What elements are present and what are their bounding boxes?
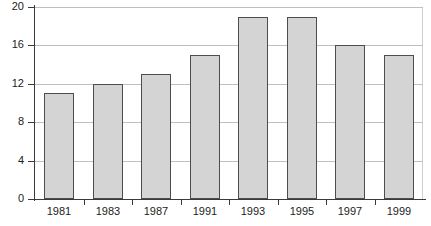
y-tick-label: 4: [0, 155, 24, 166]
x-tick-mark-1997: [375, 200, 376, 205]
bar-1987: [141, 74, 171, 199]
x-tick-label: 1993: [228, 206, 278, 217]
x-tick-mark-1983: [132, 200, 133, 205]
bar-chart: 048121620 198119831987199119931995199719…: [0, 0, 431, 226]
bar-1999: [384, 55, 414, 199]
bars-layer: [35, 7, 423, 199]
y-tick-label: 0: [0, 193, 24, 204]
bar-1997: [335, 45, 365, 199]
y-tick-mark-20: [28, 7, 35, 8]
x-tick-mark-1995: [326, 200, 327, 205]
x-tick-label: 1999: [374, 206, 424, 217]
y-tick-mark-8: [28, 122, 35, 123]
bar-1981: [44, 93, 74, 199]
bar-1995: [287, 17, 317, 199]
x-tick-mark-1993: [278, 200, 279, 205]
y-tick-label: 8: [0, 116, 24, 127]
y-tick-mark-12: [28, 84, 35, 85]
x-tick-label: 1995: [277, 206, 327, 217]
y-tick-label: 20: [0, 1, 24, 12]
y-tick-label: 16: [0, 39, 24, 50]
x-tick-mark-1987: [181, 200, 182, 205]
bar-1991: [190, 55, 220, 199]
x-tick-label: 1991: [180, 206, 230, 217]
x-tick-mark-1991: [229, 200, 230, 205]
x-tick-label: 1981: [34, 206, 84, 217]
x-tick-label: 1983: [83, 206, 133, 217]
x-tick-mark-1981: [84, 200, 85, 205]
x-tick-label: 1987: [131, 206, 181, 217]
y-tick-mark-16: [28, 45, 35, 46]
bar-1993: [238, 17, 268, 199]
y-tick-mark-4: [28, 161, 35, 162]
y-tick-label: 12: [0, 78, 24, 89]
y-tick-mark-0: [28, 199, 35, 200]
x-tick-label: 1997: [325, 206, 375, 217]
bar-1983: [93, 84, 123, 199]
x-axis-line: [28, 199, 426, 200]
